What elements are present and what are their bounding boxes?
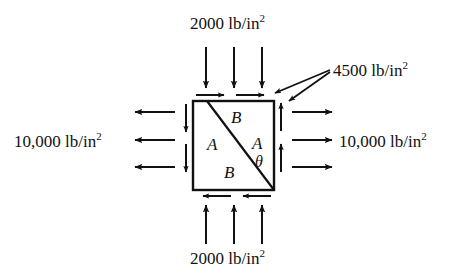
bottom-stress-value: 2000 bbox=[190, 249, 224, 268]
bottom-normal-stress-arrows bbox=[206, 205, 262, 244]
bottom-stress-unit: lb/in bbox=[228, 249, 259, 268]
region-label-right-a: A bbox=[252, 135, 262, 152]
top-stress-exponent: 2 bbox=[259, 12, 265, 24]
bottom-stress-exponent: 2 bbox=[259, 247, 265, 259]
region-label-upper-b: B bbox=[231, 109, 241, 126]
right-stress-value: 10,000 bbox=[339, 132, 386, 151]
right-normal-stress-arrows bbox=[292, 112, 332, 167]
region-label-lower-b: B bbox=[224, 164, 234, 181]
left-stress-unit: lb/in bbox=[65, 132, 96, 151]
shear-label-leader-lines bbox=[275, 70, 330, 101]
shear-stress-unit: lb/in bbox=[371, 61, 402, 80]
bottom-stress-label: 2000 lb/in2 bbox=[190, 248, 265, 267]
angle-theta-label: θ bbox=[255, 154, 263, 170]
shear-stress-exponent: 2 bbox=[402, 59, 408, 71]
top-stress-value: 2000 bbox=[190, 14, 224, 33]
top-normal-stress-arrows bbox=[206, 47, 262, 88]
stress-element-figure: 2000 lb/in2 2000 lb/in2 10,000 lb/in2 10… bbox=[0, 0, 464, 274]
right-stress-unit: lb/in bbox=[390, 132, 421, 151]
top-stress-unit: lb/in bbox=[228, 14, 259, 33]
right-stress-exponent: 2 bbox=[421, 130, 427, 142]
top-stress-label: 2000 lb/in2 bbox=[190, 13, 265, 32]
left-stress-value: 10,000 bbox=[14, 132, 61, 151]
shear-stress-label: 4500 lb/in2 bbox=[333, 60, 408, 79]
region-label-left-a: A bbox=[207, 136, 217, 153]
left-stress-exponent: 2 bbox=[96, 130, 102, 142]
shear-stress-value: 4500 bbox=[333, 61, 367, 80]
left-stress-label: 10,000 lb/in2 bbox=[14, 131, 102, 150]
left-normal-stress-arrows bbox=[135, 112, 175, 167]
right-stress-label: 10,000 lb/in2 bbox=[339, 131, 427, 150]
